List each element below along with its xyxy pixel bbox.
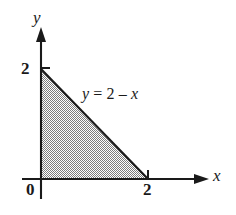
x-axis-tick-label-2: 2: [143, 181, 152, 198]
y-axis-tick-label-2: 2: [21, 60, 30, 77]
equation-operator: –: [119, 85, 127, 102]
equation-lhs: y: [82, 85, 89, 102]
x-axis-label: x: [213, 167, 221, 184]
figure-triangular-region: y x 2 2 0 y=2–x: [0, 0, 236, 215]
origin-label: 0: [26, 181, 35, 198]
line-equation-label: y=2–x: [82, 86, 138, 102]
y-axis-arrowhead: [36, 27, 46, 42]
equation-variable: x: [131, 85, 138, 102]
plot-canvas: [0, 0, 236, 215]
x-axis-arrowhead: [194, 174, 209, 184]
equation-relation: =: [93, 85, 102, 102]
y-axis-label: y: [33, 9, 41, 26]
equation-constant: 2: [107, 85, 115, 102]
